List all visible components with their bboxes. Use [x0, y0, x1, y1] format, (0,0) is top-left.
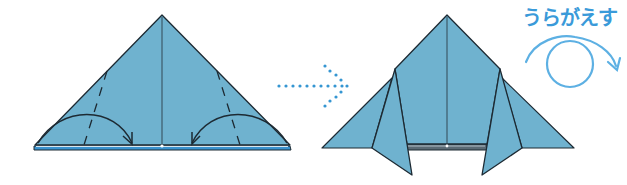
flip-over-instruction-text: うらがえす [522, 2, 626, 31]
center-point [160, 144, 163, 147]
center-point [446, 145, 449, 148]
step-after-figure [322, 15, 574, 175]
paper-triangle [35, 15, 290, 145]
step-before-figure [34, 15, 291, 150]
dotted-arrow-right-icon [277, 64, 348, 107]
flip-over-loop-arrow-icon [526, 36, 620, 87]
paper-body [395, 15, 500, 144]
base-bar [405, 144, 487, 150]
